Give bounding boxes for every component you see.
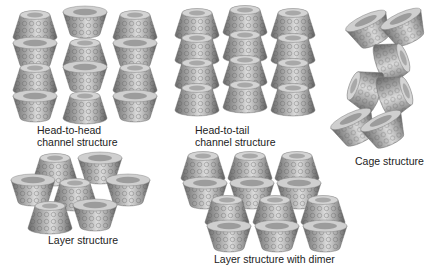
cage-label: Cage structure	[355, 155, 424, 167]
label-line: Head-to-head	[37, 124, 118, 136]
head-to-head-panel	[13, 6, 157, 124]
head-to-tail-label: Head-to-tail channel structure	[195, 124, 276, 148]
cage-panel	[328, 4, 431, 154]
head-to-head-label: Head-to-head channel structure	[37, 124, 118, 148]
label-line: Head-to-tail	[195, 124, 276, 136]
cyclodextrin-packing-diagram: Head-to-head channel structure Head-to-t…	[0, 0, 437, 272]
layer-panel	[11, 152, 150, 234]
layer-dimer-panel	[181, 152, 347, 253]
label-line: channel structure	[37, 136, 118, 148]
head-to-tail-panel	[175, 6, 315, 117]
layer-label: Layer structure	[48, 234, 118, 246]
label-line: channel structure	[195, 136, 276, 148]
layer-dimer-label: Layer structure with dimer	[214, 253, 335, 265]
